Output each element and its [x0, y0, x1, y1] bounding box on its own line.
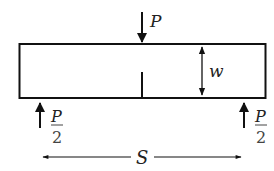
- span-label: S: [136, 147, 148, 168]
- right-support-label: P 2: [254, 107, 267, 147]
- width-label: w: [209, 61, 224, 81]
- three-point-bend-diagram: P w P 2 P 2 S: [0, 0, 274, 171]
- left-support-numerator: P: [50, 107, 62, 126]
- left-support-label: P 2: [50, 107, 63, 147]
- right-support-numerator: P: [254, 107, 266, 126]
- right-support-denominator: 2: [256, 128, 266, 147]
- left-support-denominator: 2: [52, 128, 62, 147]
- load-label: P: [149, 11, 162, 31]
